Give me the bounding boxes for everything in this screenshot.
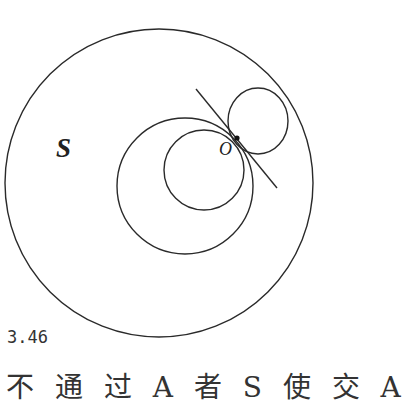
- point-o-label: O: [219, 139, 232, 160]
- caption-text-clipped: 不 通 过 A 者 S 使 交 A: [6, 365, 406, 404]
- outer-circle: [5, 29, 313, 337]
- inner-circle: [164, 130, 244, 210]
- point-o-dot: [234, 135, 239, 140]
- upper-circle: [228, 88, 288, 154]
- region-s-label: S: [56, 133, 71, 164]
- figure-number: 3.46: [7, 327, 48, 347]
